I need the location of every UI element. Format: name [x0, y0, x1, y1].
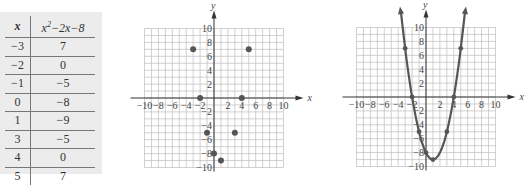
y-tick-label: −2	[201, 106, 212, 117]
y-tick-label: −8	[413, 147, 424, 158]
data-point	[246, 46, 252, 52]
y-tick-label: 6	[419, 50, 424, 61]
y-tick-label: −8	[201, 148, 212, 159]
x-tick-label: −6	[167, 100, 178, 111]
y-value: −5	[31, 75, 96, 94]
x-value: 1	[5, 112, 31, 131]
x-value: 5	[5, 167, 31, 185]
x-tick-label: 10	[279, 100, 289, 111]
curve-arrow-icon	[398, 6, 404, 14]
y-tick-label: −6	[201, 134, 212, 145]
data-point	[239, 95, 245, 101]
y-value: 7	[31, 38, 96, 57]
data-point	[444, 129, 449, 134]
y-tick-label: 4	[207, 65, 212, 76]
x-tick-label: 4	[239, 100, 244, 111]
table-row: −37	[5, 38, 95, 57]
table-row: 57	[5, 167, 95, 185]
data-point	[218, 158, 224, 164]
curve-arrow-icon	[462, 6, 468, 14]
data-point	[232, 130, 238, 136]
x-axis-label: x	[519, 91, 525, 102]
data-point	[451, 95, 456, 100]
y-tick-label: 4	[419, 64, 424, 75]
table-row: 1−9	[5, 112, 95, 131]
x-tick-label: 2	[225, 100, 230, 111]
data-point	[410, 95, 415, 100]
data-point	[403, 46, 408, 51]
data-point	[424, 150, 429, 155]
x-tick-label: −8	[153, 100, 164, 111]
header-x: x	[5, 16, 31, 38]
table-row: 3−5	[5, 130, 95, 149]
y-tick-label: 8	[419, 36, 424, 47]
y-value: 7	[31, 167, 96, 185]
x-tick-label: −4	[393, 99, 404, 110]
x-axis-label: x	[307, 92, 313, 103]
x-tick-label: 6	[253, 100, 258, 111]
y-tick-label: 8	[207, 37, 212, 48]
data-point	[431, 157, 436, 162]
data-point	[211, 151, 217, 157]
y-arrow-icon	[212, 11, 217, 19]
x-tick-label: −10	[137, 100, 153, 111]
y-tick-label: 6	[207, 51, 212, 62]
y-tick-label: 10	[414, 22, 424, 33]
y-arrow-icon	[424, 10, 429, 18]
x-tick-label: −10	[349, 99, 365, 110]
y-tick-label: 2	[419, 78, 424, 89]
y-value: 0	[31, 56, 96, 75]
y-tick-label: 10	[202, 23, 212, 34]
x-value: 0	[5, 93, 31, 112]
x-value: 4	[5, 149, 31, 168]
data-point	[204, 130, 210, 136]
y-tick-label: −10	[408, 161, 424, 172]
y-tick-label: 2	[207, 79, 212, 90]
x-tick-label: 6	[465, 99, 470, 110]
x-value: −1	[5, 75, 31, 94]
parabola-graph: xy−10−8−6−4−2246810108642−2−4−6−8−10	[326, 0, 526, 186]
y-tick-label: −4	[201, 120, 212, 131]
data-point	[190, 46, 196, 52]
x-tick-label: 10	[491, 99, 501, 110]
x-value: −3	[5, 38, 31, 57]
x-tick-label: 8	[479, 99, 484, 110]
header-expression: x2−2x−8	[31, 16, 96, 38]
x-tick-label: 8	[267, 100, 272, 111]
y-value: −5	[31, 130, 96, 149]
x-arrow-icon	[508, 95, 516, 100]
x-tick-label: 2	[437, 99, 442, 110]
y-axis-label: y	[210, 0, 216, 11]
data-point	[458, 46, 463, 51]
y-value: −8	[31, 93, 96, 112]
data-point	[197, 95, 203, 101]
value-table: x x2−2x−8 −37−20−1−50−81−93−54057	[0, 12, 102, 174]
table-row: −20	[5, 56, 95, 75]
x-value: 3	[5, 130, 31, 149]
x-arrow-icon	[296, 96, 304, 101]
x-tick-label: −4	[181, 100, 192, 111]
y-value: 0	[31, 149, 96, 168]
y-value: −9	[31, 112, 96, 131]
x-tick-label: −6	[379, 99, 390, 110]
table-row: 0−8	[5, 93, 95, 112]
data-point	[417, 129, 422, 134]
y-axis-label: y	[422, 0, 428, 10]
table-row: 40	[5, 149, 95, 168]
y-tick-label: −10	[196, 162, 212, 173]
x-tick-label: −8	[365, 99, 376, 110]
table-row: −1−5	[5, 75, 95, 94]
x-value: −2	[5, 56, 31, 75]
scatter-graph: xy−10−8−6−4−2246810108642−2−4−6−8−10	[130, 0, 330, 186]
